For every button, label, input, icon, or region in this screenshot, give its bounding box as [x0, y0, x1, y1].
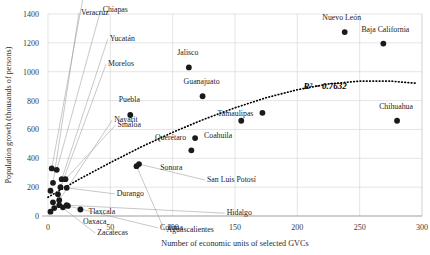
y-tick-800: 800 — [27, 97, 39, 106]
data-point — [238, 118, 244, 124]
x-tick-0: 0 — [46, 223, 50, 232]
data-point — [64, 185, 70, 191]
data-point — [56, 197, 62, 203]
data-point — [49, 165, 55, 171]
point-label-puebla: Puebla — [119, 95, 141, 104]
point-label-sinaloa: Sinaloa — [117, 120, 141, 129]
y-axis-title: Population growth (thousands of persons) — [4, 46, 13, 183]
r-squared-annotation: R² = 0.7632 — [303, 81, 348, 91]
point-label-hidalgo: Hidalgo — [227, 208, 252, 217]
label-leader-lines — [52, 0, 225, 233]
data-point — [200, 93, 206, 99]
point-label-guanajuato: Guanajuato — [184, 77, 220, 86]
data-point — [58, 184, 64, 190]
y-tick-1200: 1200 — [23, 39, 39, 48]
y-tick-1400: 1400 — [23, 10, 39, 19]
y-tick-1000: 1000 — [23, 68, 39, 77]
point-label-durango: Durango — [117, 189, 144, 198]
point-label-tamaulipas: Tamaulipas — [218, 109, 254, 118]
data-point — [54, 167, 60, 173]
point-label-morelos: Morelos — [108, 59, 134, 68]
chart-canvas: 0200400600800100012001400 05010015020025… — [0, 0, 430, 255]
point-label-nuevo-le-n: Nuevo León — [322, 13, 361, 22]
x-tick-200: 200 — [291, 223, 303, 232]
data-point — [50, 199, 56, 205]
point-label-colima: Colima — [160, 223, 183, 232]
point-label-baja-california: Baja California — [361, 25, 409, 34]
point-label-chihuahua: Chihuahua — [379, 102, 413, 111]
point-label-tlaxcala: Tlaxcala — [88, 207, 115, 216]
data-point — [380, 41, 386, 47]
point-label-coahuila: Coahuila — [204, 131, 233, 140]
data-point — [60, 204, 66, 210]
x-tick-150: 150 — [229, 223, 241, 232]
point-label-zacatecas: Zacatecas — [97, 228, 128, 237]
data-points — [48, 29, 400, 214]
data-point — [63, 176, 69, 182]
point-label-jalisco: Jalisco — [177, 48, 198, 57]
point-label-quer-taro: Querétaro — [155, 133, 186, 142]
data-point — [55, 191, 61, 197]
point-label-yucat-n: Yucatán — [110, 34, 135, 43]
y-tick-400: 400 — [27, 154, 39, 163]
data-point — [186, 64, 192, 70]
point-label-chiapas: Chiapas — [103, 5, 128, 14]
data-point — [78, 207, 84, 213]
scatter-chart: 0200400600800100012001400 05010015020025… — [0, 0, 430, 255]
data-point — [51, 205, 57, 211]
data-point — [342, 29, 348, 35]
point-label-sonora: Sonora — [160, 163, 183, 172]
point-label-oaxaca: Oaxaca — [83, 217, 107, 226]
data-point — [134, 163, 140, 169]
data-point — [260, 110, 266, 116]
y-tick-200: 200 — [27, 183, 39, 192]
x-tick-300: 300 — [416, 223, 428, 232]
x-tick-250: 250 — [354, 223, 366, 232]
y-tick-600: 600 — [27, 125, 39, 134]
data-point — [48, 188, 54, 194]
y-tick-0: 0 — [35, 212, 39, 221]
y-axis-tick-labels: 0200400600800100012001400 — [23, 10, 39, 221]
point-label-san-luis-potos-: San Luis Potosí — [207, 175, 257, 184]
data-point-labels: Nuevo LeónBaja CaliforniaJaliscoGuanajua… — [81, 0, 414, 237]
x-axis-title: Number of economic units of selected GVC… — [161, 239, 308, 248]
data-point — [50, 180, 56, 186]
data-point — [188, 147, 194, 153]
data-point — [394, 118, 400, 124]
data-point — [192, 135, 198, 141]
